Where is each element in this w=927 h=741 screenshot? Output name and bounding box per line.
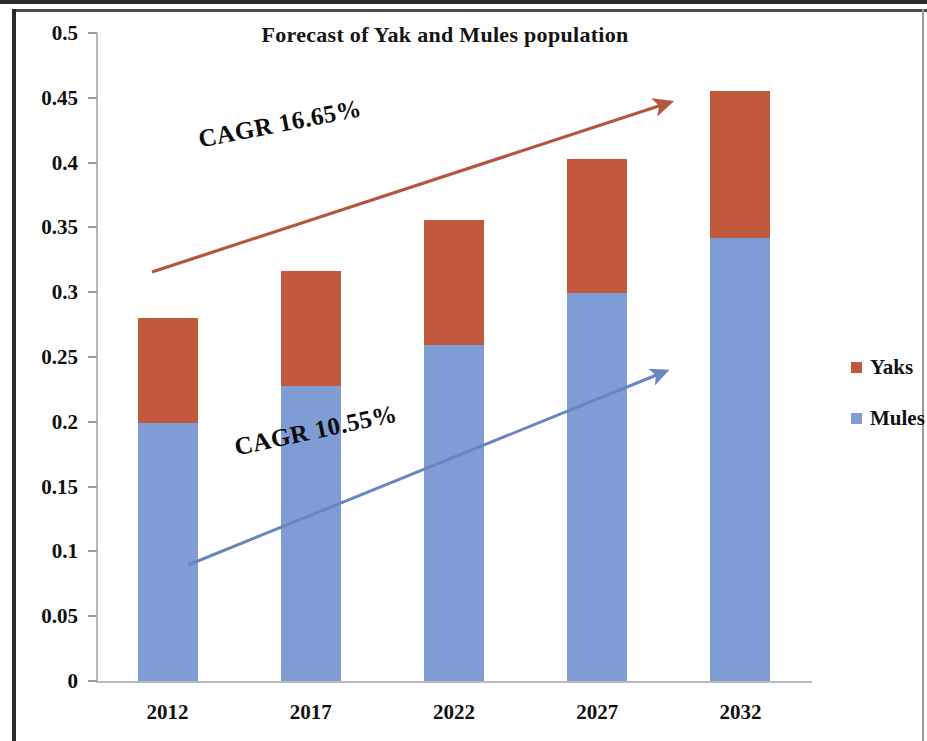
y-axis-tick (88, 162, 97, 164)
chart-legend: YaksMules (851, 355, 927, 457)
bar-segment-yaks (567, 159, 627, 294)
x-axis-label-2032: 2032 (670, 700, 810, 725)
legend-swatch-icon (851, 362, 862, 373)
y-axis-tick-label: 0.15 (0, 474, 78, 499)
bar-segment-mules (138, 423, 198, 681)
y-axis-tick (88, 550, 97, 552)
legend-item-mules[interactable]: Mules (851, 406, 927, 431)
y-axis-tick (88, 486, 97, 488)
legend-label: Yaks (870, 355, 913, 380)
bar-segment-mules (424, 345, 484, 681)
chart-title: Forecast of Yak and Mules population (185, 22, 705, 48)
x-axis-label-2017: 2017 (241, 700, 381, 725)
legend-swatch-icon (851, 413, 862, 424)
x-axis-label-2012: 2012 (98, 700, 238, 725)
y-axis-tick-label: 0.5 (0, 21, 78, 46)
x-axis-line (96, 681, 812, 683)
y-axis-tick-label: 0.2 (0, 409, 78, 434)
y-axis-tick-label: 0 (0, 669, 78, 694)
annotation-cagr-yaks: CAGR 16.65% (196, 94, 364, 153)
stacked-bar-2032 (710, 91, 770, 681)
stacked-bar-2027 (567, 159, 627, 681)
y-axis-tick-label: 0.3 (0, 280, 78, 305)
y-axis-tick-label: 0.1 (0, 539, 78, 564)
bar-segment-yaks (710, 91, 770, 237)
y-axis-tick (88, 97, 97, 99)
bar-segment-mules (710, 238, 770, 681)
stacked-bar-chart: Forecast of Yak and Mules population 0.5… (0, 0, 927, 741)
y-axis-tick-label: 0.05 (0, 604, 78, 629)
bar-segment-yaks (424, 220, 484, 346)
y-axis-tick-label: 0.25 (0, 345, 78, 370)
y-axis-tick (88, 680, 97, 682)
y-axis-tick (88, 291, 97, 293)
bar-segment-yaks (281, 271, 341, 385)
bar-segment-yaks (138, 318, 198, 423)
scanned-chart-page: Forecast of Yak and Mules population 0.5… (0, 0, 927, 741)
y-axis-tick (88, 615, 97, 617)
y-axis-tick (88, 356, 97, 358)
y-axis-tick-label: 0.45 (0, 85, 78, 110)
y-axis-tick (88, 32, 97, 34)
y-axis-tick-label: 0.35 (0, 215, 78, 240)
y-axis-tick-label: 0.4 (0, 150, 78, 175)
y-axis-line (96, 33, 98, 683)
y-axis-tick (88, 226, 97, 228)
x-axis-label-2022: 2022 (384, 700, 524, 725)
bar-segment-mules (567, 293, 627, 681)
stacked-bar-2017 (281, 271, 341, 681)
stacked-bar-2022 (424, 220, 484, 681)
legend-item-yaks[interactable]: Yaks (851, 355, 927, 380)
y-axis-tick (88, 421, 97, 423)
legend-label: Mules (870, 406, 925, 431)
stacked-bar-2012 (138, 318, 198, 681)
x-axis-label-2027: 2027 (527, 700, 667, 725)
